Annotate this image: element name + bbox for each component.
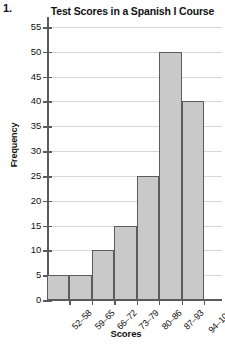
bar xyxy=(182,101,204,300)
bar xyxy=(137,176,159,300)
x-tick-mark xyxy=(204,300,205,305)
y-tick-label: 40 xyxy=(31,95,41,106)
y-tick-mark xyxy=(43,126,52,128)
x-axis-label: Scores xyxy=(47,328,205,339)
bar xyxy=(92,250,114,300)
y-tick-label: 30 xyxy=(31,145,41,156)
problem-number: 1. xyxy=(3,2,12,14)
y-axis-label: Frequency xyxy=(9,105,19,185)
x-tick-mark xyxy=(137,300,138,305)
gridline xyxy=(47,77,222,78)
x-tick-mark xyxy=(182,300,183,305)
y-tick-label: 10 xyxy=(31,244,41,255)
y-tick-mark xyxy=(43,226,52,228)
y-tick-label: 15 xyxy=(31,220,41,231)
y-tick-mark xyxy=(43,151,52,153)
bar xyxy=(159,52,181,300)
y-tick-mark xyxy=(43,77,52,79)
x-tick-label: 94–100 xyxy=(206,308,225,335)
y-tick-label: 0 xyxy=(36,294,41,305)
x-tick-mark xyxy=(69,300,70,305)
y-tick-mark xyxy=(43,27,52,29)
y-tick-label: 35 xyxy=(31,120,41,131)
y-tick-mark xyxy=(43,101,52,103)
plot-area: 0510152025303540455055 52–5859–6566–7273… xyxy=(47,27,222,300)
y-tick-label: 45 xyxy=(31,71,41,82)
x-tick-mark xyxy=(159,300,160,305)
y-tick-mark xyxy=(43,300,52,302)
y-tick-label: 5 xyxy=(36,269,41,280)
gridline xyxy=(47,52,222,53)
y-tick-label: 20 xyxy=(31,195,41,206)
y-tick-label: 25 xyxy=(31,170,41,181)
y-tick-mark xyxy=(43,250,52,252)
bar xyxy=(47,275,69,300)
bar xyxy=(114,226,136,300)
y-tick-label: 50 xyxy=(31,46,41,57)
y-tick-mark xyxy=(43,201,52,203)
x-tick-mark xyxy=(114,300,115,305)
chart-title: Test Scores in a Spanish I Course xyxy=(40,5,225,17)
y-tick-mark xyxy=(43,176,52,178)
x-tick-mark xyxy=(92,300,93,305)
y-tick-mark xyxy=(43,52,52,54)
bar xyxy=(69,275,91,300)
y-tick-label: 55 xyxy=(31,21,41,32)
gridline xyxy=(47,27,222,28)
